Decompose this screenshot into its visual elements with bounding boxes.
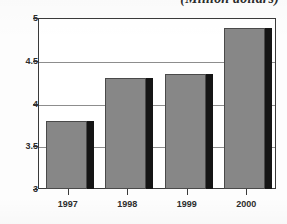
- y-tick-label: 4: [8, 99, 38, 109]
- x-tick-label-2000: 2000: [216, 199, 276, 209]
- x-tick-label-1997: 1997: [38, 199, 98, 209]
- bar-slot: [46, 18, 94, 189]
- x-tick-label-1998: 1998: [97, 199, 157, 209]
- bar-1998[interactable]: [105, 78, 146, 189]
- bar-1999[interactable]: [165, 74, 206, 189]
- bar-shadow-1997: [87, 121, 94, 189]
- y-tick-label: 3: [8, 184, 38, 194]
- x-tick-label-1999: 1999: [157, 199, 217, 209]
- x-tick-mark: [127, 189, 128, 195]
- bar-chart-figure: (Million dollars) 33.544.55 199719981999…: [0, 0, 287, 224]
- bar-slot: [224, 18, 272, 189]
- x-tick-mark: [68, 189, 69, 195]
- bar-shadow-1999: [206, 74, 213, 189]
- y-tick-label: 4.5: [8, 56, 38, 66]
- bars-group: [38, 18, 276, 189]
- bar-slot: [105, 18, 153, 189]
- bar-shadow-1998: [146, 78, 153, 189]
- x-tick-mark: [187, 189, 188, 195]
- bar-1997[interactable]: [46, 121, 87, 189]
- bar-shadow-2000: [265, 28, 272, 189]
- y-tick-label: 5: [8, 13, 38, 23]
- chart-title: (Million dollars): [180, 0, 279, 7]
- y-tick-label: 3.5: [8, 141, 38, 151]
- bar-2000[interactable]: [224, 28, 265, 189]
- x-tick-mark: [246, 189, 247, 195]
- bar-slot: [165, 18, 213, 189]
- chart-title-clip: (Million dollars): [0, 0, 287, 9]
